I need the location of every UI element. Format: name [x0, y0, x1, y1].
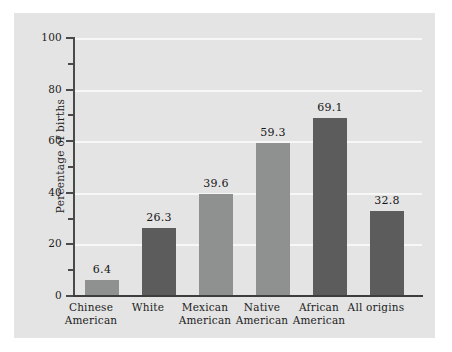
y-tick-20: [66, 243, 73, 245]
bar-native-american: [256, 143, 290, 296]
y-tick-10: [68, 269, 73, 271]
bar-value-chinese-american: 6.4: [72, 263, 132, 276]
x-category-line-1: All origins: [337, 301, 415, 314]
bar-value-african-american: 69.1: [300, 101, 360, 114]
y-axis-line: [73, 37, 75, 297]
bar-mexican-american: [199, 194, 233, 296]
y-tick-label-80: 80: [34, 83, 62, 95]
y-tick-labels: 100 80 60 40 20 0: [30, 0, 62, 352]
gridline-100: [74, 38, 422, 40]
y-tick-90: [68, 63, 73, 65]
y-tick-100: [66, 37, 73, 39]
bar-chinese-american: [85, 280, 119, 297]
y-tick-80: [66, 89, 73, 91]
x-axis-line: [73, 295, 423, 297]
y-tick-label-20: 20: [34, 237, 62, 249]
bar-all-origins: [370, 211, 404, 296]
x-category-line-2: American: [280, 314, 358, 327]
x-category-line-2: American: [52, 314, 130, 327]
gridline-80: [74, 90, 422, 92]
x-category-label-all-origins: All origins: [337, 301, 415, 314]
y-tick-40: [66, 192, 73, 194]
y-tick-label-100: 100: [34, 31, 62, 43]
chart-figure: Percentage of births 6.4 26.3 39.6 59.3 …: [0, 0, 452, 352]
bar-value-native-american: 59.3: [243, 126, 303, 139]
bar-white: [142, 228, 176, 296]
gridline-60: [74, 141, 422, 143]
bar-value-all-origins: 32.8: [357, 194, 417, 207]
y-tick-0: [66, 295, 73, 297]
bar-value-white: 26.3: [129, 211, 189, 224]
bar-african-american: [313, 118, 347, 296]
y-tick-70: [68, 114, 73, 116]
y-tick-60: [66, 140, 73, 142]
y-tick-label-60: 60: [34, 134, 62, 146]
y-tick-label-0: 0: [34, 289, 62, 301]
bar-value-mexican-american: 39.6: [186, 177, 246, 190]
plot-area: 6.4 26.3 39.6 59.3 69.1 32.8: [74, 38, 422, 296]
y-tick-50: [68, 166, 73, 168]
y-tick-30: [68, 218, 73, 220]
y-tick-label-40: 40: [34, 186, 62, 198]
